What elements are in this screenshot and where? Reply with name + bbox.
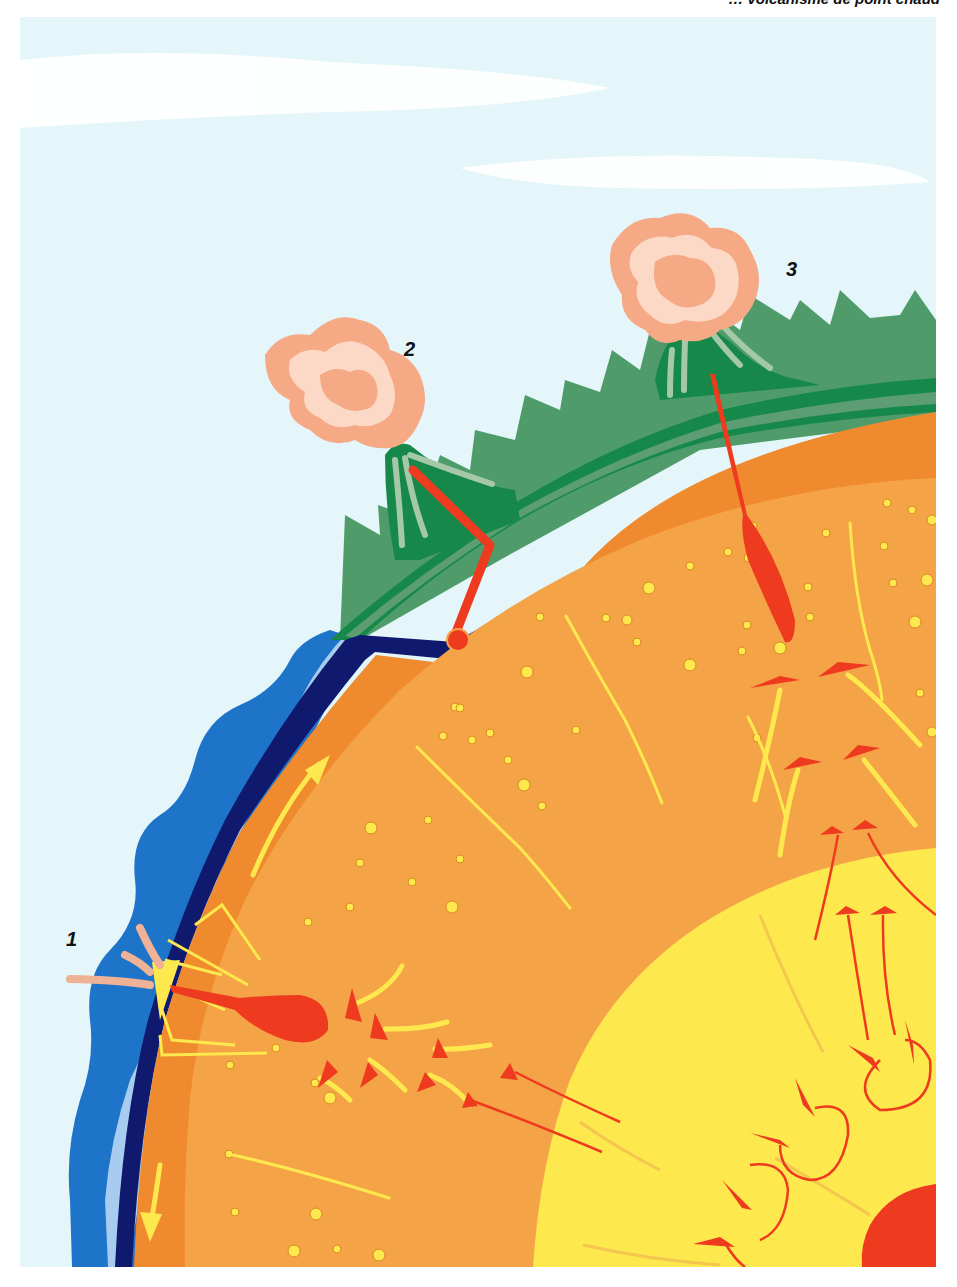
earth-cross-section-diagram <box>0 0 957 1287</box>
label-3: 3 <box>786 258 797 281</box>
magma-chamber-2 <box>447 629 469 651</box>
label-2: 2 <box>404 338 415 361</box>
label-1: 1 <box>66 928 77 951</box>
